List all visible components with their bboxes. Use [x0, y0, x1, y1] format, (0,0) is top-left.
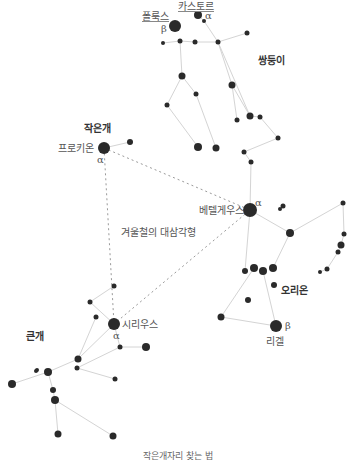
- star-dot: [250, 264, 258, 272]
- star-dot: [258, 115, 263, 120]
- greek-pollux: β: [161, 24, 167, 34]
- star-dot: [44, 368, 52, 376]
- star-dot: [194, 143, 202, 151]
- constellation-line: [218, 42, 237, 120]
- star-dot: [118, 345, 123, 350]
- star-label-pollux: 폴룩스: [142, 12, 169, 22]
- constellation-line: [250, 203, 344, 272]
- greek-sirius: α: [113, 331, 120, 341]
- star-dot: [271, 282, 277, 288]
- star-dot: [249, 160, 254, 165]
- star-dot: [94, 315, 99, 320]
- star-dot: [235, 118, 240, 123]
- star-dot: [278, 207, 282, 211]
- star-dot: [127, 139, 133, 145]
- star-dot: [112, 284, 117, 289]
- constellation-line: [198, 15, 250, 116]
- star-dot: [342, 232, 347, 237]
- constellation-label-canis-major: 큰개: [26, 332, 44, 342]
- star-dot: [75, 366, 80, 371]
- greek-castor: α: [205, 11, 212, 21]
- constellation-line: [232, 85, 278, 138]
- star-dot: [194, 92, 199, 97]
- star-dot: [193, 40, 198, 45]
- star-dot: [142, 343, 150, 351]
- constellation-line: [163, 33, 247, 43]
- star-dot: [242, 150, 247, 155]
- star-dot: [113, 377, 118, 382]
- star-dot: [341, 201, 346, 206]
- constellation-label-canis-minor: 작은개: [84, 124, 111, 134]
- constellation-line: [77, 347, 120, 379]
- greek-rigel: β: [285, 321, 291, 331]
- star-dot: [161, 41, 165, 45]
- winter-triangle-chart: 쌍둥이 작은개 오리온 큰개 카스토르 α 폴룩스 β 프로키온 α 베텔게우스…: [0, 0, 350, 461]
- star-dot: [50, 387, 56, 393]
- constellation-line: [244, 138, 278, 162]
- star-dot: [216, 40, 221, 45]
- star-dot: [179, 73, 186, 80]
- star-dot: [336, 250, 341, 255]
- star-dot: [276, 136, 281, 141]
- star-dot: [245, 31, 250, 36]
- star-dot: [110, 433, 117, 440]
- star-label-rigel: 리겔: [266, 337, 284, 347]
- constellation-line: [55, 400, 113, 436]
- star-label-betelgeuse: 베텔게우스: [199, 206, 244, 216]
- star-dot: [229, 82, 236, 89]
- star-dot: [169, 20, 181, 32]
- constellation-line: [167, 41, 198, 147]
- star-dot: [88, 300, 93, 305]
- constellation-line: [273, 233, 290, 268]
- greek-procyon: α: [97, 155, 104, 165]
- star-dot: [75, 356, 82, 363]
- winter-triangle-label: 겨울철의 대삼각형: [121, 228, 196, 238]
- constellation-label-gemini: 쌍둥이: [258, 56, 285, 66]
- star-dot: [108, 318, 120, 330]
- star-dot: [98, 142, 110, 154]
- star-dot: [55, 431, 62, 438]
- constellation-line: [182, 76, 216, 148]
- star-dot: [51, 396, 59, 404]
- star-dot: [178, 39, 183, 44]
- star-dot: [259, 267, 267, 275]
- star-dot: [245, 297, 251, 303]
- constellation-label-orion: 오리온: [281, 286, 308, 296]
- constellation-line: [221, 268, 276, 326]
- star-dot: [213, 145, 220, 152]
- star-label-procyon: 프로키온: [58, 144, 94, 154]
- star-label-sirius: 시리우스: [122, 320, 158, 330]
- star-dot: [325, 267, 330, 272]
- star-dot: [270, 320, 282, 332]
- star-dot: [8, 380, 16, 388]
- star-dot: [338, 242, 345, 249]
- star-dot: [194, 11, 202, 19]
- star-dot: [165, 103, 170, 108]
- star-dot: [318, 270, 322, 274]
- star-dot: [218, 314, 225, 321]
- greek-betelgeuse: α: [255, 198, 262, 208]
- figure-caption: 작은개자리 찾는 법: [143, 452, 213, 461]
- star-dot: [269, 264, 277, 272]
- constellation-line: [78, 317, 96, 359]
- star-dot: [242, 268, 248, 274]
- star-dot: [247, 113, 254, 120]
- star-dot: [286, 229, 294, 237]
- star-dot: [34, 369, 38, 373]
